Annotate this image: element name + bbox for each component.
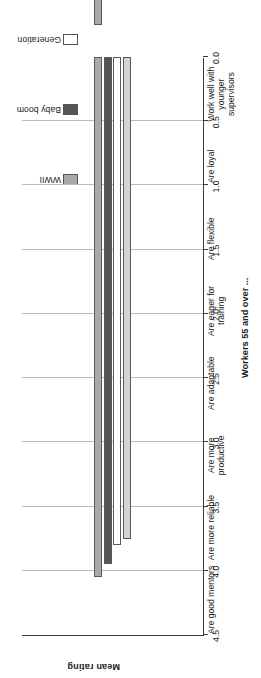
value-axis-title: Mean rating	[67, 662, 120, 672]
category-label: Are loyal	[206, 130, 246, 202]
bar-group	[22, 0, 203, 57]
category-label: Are more reliable	[206, 492, 246, 564]
bar[interactable]	[104, 57, 112, 564]
bar[interactable]	[94, 0, 102, 25]
category-axis-title: Workers 55 and over ...	[240, 278, 250, 378]
bar[interactable]	[123, 57, 131, 539]
category-label: Are good mentors	[206, 564, 246, 636]
category-label: Are flexible	[206, 203, 246, 275]
bar-chart-figure: WWIIBaby boomGenerationGeneration 4.54.0…	[0, 0, 261, 678]
bar-group	[22, 57, 203, 635]
bar-groups	[22, 58, 203, 635]
bar[interactable]	[94, 57, 102, 577]
bar[interactable]	[113, 57, 121, 545]
category-label: Are more productive	[206, 419, 246, 491]
plot-area	[22, 58, 204, 636]
category-label: Work well with younger supervisors	[206, 58, 246, 130]
category-tick	[203, 56, 208, 57]
chart-canvas: WWIIBaby boomGenerationGeneration 4.54.0…	[0, 0, 261, 678]
